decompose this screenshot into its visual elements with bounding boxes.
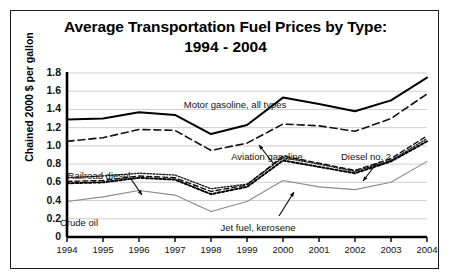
- x-tick-label: 2000: [266, 244, 300, 255]
- y-tick-label: 0.8: [35, 157, 61, 169]
- x-tick-label: 1994: [50, 244, 84, 255]
- annotation-label: Jet fuel, kerosene: [221, 222, 296, 233]
- y-tick-label: 1.4: [35, 102, 61, 114]
- y-tick-label: 1.8: [35, 66, 61, 78]
- y-tick-label: 1.6: [35, 84, 61, 96]
- x-tick-label: 1997: [158, 244, 192, 255]
- y-tick-label: 0.2: [35, 212, 61, 224]
- y-tick-label: 0.4: [35, 194, 61, 206]
- y-tick-label: 1.2: [35, 121, 61, 133]
- series-line-diesel-no-2: [67, 136, 427, 192]
- annotation-label: Crude oil: [60, 217, 98, 228]
- y-tick-label: 1.0: [35, 139, 61, 151]
- x-tick-label: 1998: [194, 244, 228, 255]
- x-tick-label: 1995: [86, 244, 120, 255]
- x-tick-label: 1996: [122, 244, 156, 255]
- y-tick-label: 0.6: [35, 175, 61, 187]
- annotation-label: Motor gasoline, all types: [184, 99, 286, 110]
- annotation-label: Aviation gasoline: [231, 151, 303, 162]
- x-tick-label: 2002: [338, 244, 372, 255]
- x-tick-label: 2003: [374, 244, 408, 255]
- y-tick-label: 0: [35, 230, 61, 242]
- x-tick-label: 2004: [410, 244, 444, 255]
- annotation-label: Railroad diesel: [68, 170, 131, 181]
- x-tick-label: 2001: [302, 244, 336, 255]
- x-tick-label: 1999: [230, 244, 264, 255]
- annotation-label: Diesel no. 2: [341, 151, 391, 162]
- chart-frame: Average Transportation Fuel Prices by Ty…: [10, 10, 439, 269]
